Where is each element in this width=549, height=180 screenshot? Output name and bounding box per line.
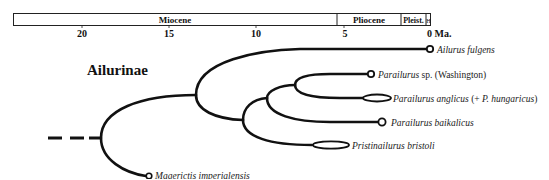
tick-5: 5 bbox=[343, 28, 348, 39]
taxon-pristinailurus-bristoli: Pristinailurus bristoli bbox=[351, 141, 435, 151]
taxon-parailurus-sp: Parailurus sp. (Washington) bbox=[377, 70, 486, 81]
tick-20: 20 bbox=[77, 28, 87, 39]
epoch-holocene: H bbox=[426, 18, 431, 24]
clade-label: Ailurinae bbox=[87, 62, 148, 78]
epoch-miocene: Miocene bbox=[159, 15, 191, 25]
taxon-ailurus-fulgens: Ailurus fulgens bbox=[436, 45, 495, 55]
terminal-markers bbox=[146, 46, 433, 179]
tick-15: 15 bbox=[164, 28, 174, 39]
circle-marker-parailurus-sp bbox=[368, 71, 374, 77]
tick-10: 10 bbox=[251, 28, 261, 39]
circle-marker-magerictis bbox=[146, 173, 152, 179]
circle-marker-baikalicus bbox=[378, 118, 385, 125]
taxon-labels: Ailurus fulgens Parailurus sp. (Washingt… bbox=[154, 45, 537, 180]
phylogeny-figure: Miocene Pliocene Pleist. H 20 15 10 5 0 … bbox=[0, 0, 549, 179]
time-axis: 20 15 10 5 0 Ma. bbox=[77, 26, 452, 40]
epoch-pleistocene: Pleist. bbox=[403, 16, 424, 25]
taxon-magerictis-imperialensis: Magerictis imperialensis bbox=[154, 171, 250, 179]
taxon-parailurus-baikalicus: Parailurus baikalicus bbox=[390, 118, 474, 128]
epoch-pliocene: Pliocene bbox=[353, 15, 385, 25]
ellipse-marker-pristinailurus bbox=[313, 141, 349, 148]
tick-0-ma: 0 Ma. bbox=[427, 28, 452, 39]
taxon-parailurus-anglicus: Parailurus anglicus (+ P. hungaricus) bbox=[392, 94, 537, 105]
ellipse-marker-anglicus bbox=[363, 95, 391, 102]
circle-marker-ailurus bbox=[427, 46, 433, 52]
timescale-bar: Miocene Pliocene Pleist. H bbox=[14, 14, 432, 26]
